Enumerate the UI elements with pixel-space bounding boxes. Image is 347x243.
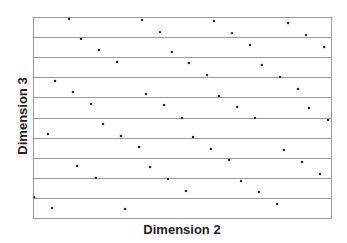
data-point: [102, 123, 104, 125]
data-point: [47, 133, 49, 135]
data-point: [138, 146, 140, 148]
data-point: [98, 49, 100, 51]
data-point: [72, 91, 74, 93]
data-point: [167, 178, 169, 180]
data-point: [218, 95, 220, 97]
data-point: [236, 106, 238, 108]
data-point: [283, 149, 285, 151]
data-point: [188, 62, 190, 64]
data-points: [33, 18, 329, 210]
data-point: [228, 159, 230, 161]
data-point: [323, 46, 325, 48]
data-point: [261, 64, 263, 66]
data-point: [51, 207, 53, 209]
y-axis-label: Dimension 3: [15, 77, 30, 154]
data-point: [163, 104, 165, 106]
data-point: [54, 80, 56, 82]
data-point: [171, 51, 173, 53]
data-point: [308, 107, 310, 109]
data-point: [319, 173, 321, 175]
data-point: [116, 61, 118, 63]
data-point: [192, 136, 194, 138]
data-point: [231, 32, 233, 34]
data-point: [258, 191, 260, 193]
data-point: [254, 117, 256, 119]
data-point: [76, 165, 78, 167]
data-point: [301, 161, 303, 163]
data-point: [95, 177, 97, 179]
data-point: [80, 38, 82, 40]
data-point: [33, 196, 35, 198]
data-point: [90, 103, 92, 105]
data-point: [145, 93, 147, 95]
data-point: [141, 19, 143, 21]
data-point: [213, 20, 215, 22]
data-point: [297, 88, 299, 90]
data-point: [249, 44, 251, 46]
data-point: [305, 34, 307, 36]
data-point: [287, 22, 289, 24]
data-point: [149, 166, 151, 168]
data-point: [279, 76, 281, 78]
data-point: [327, 119, 329, 121]
data-point: [276, 203, 278, 205]
data-point: [159, 31, 161, 33]
data-point: [124, 208, 126, 210]
data-point: [120, 135, 122, 137]
data-point: [206, 74, 208, 76]
data-point: [68, 18, 70, 20]
data-point: [240, 180, 242, 182]
scatter-plot: [0, 0, 347, 243]
data-point: [181, 117, 183, 119]
data-point: [210, 148, 212, 150]
x-axis-label: Dimension 2: [143, 222, 220, 237]
data-point: [185, 190, 187, 192]
